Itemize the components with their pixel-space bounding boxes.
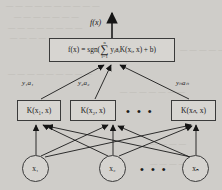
weight-label-2: y₂a₂ — [78, 79, 89, 87]
decision-operator: sgn( — [87, 45, 100, 54]
kernel-node-1-label: K(x₁, x) — [27, 106, 52, 115]
input-node-n: xₙ — [182, 155, 209, 182]
decision-bias: + b) — [144, 45, 156, 54]
input-node-2: x₂ — [99, 155, 126, 182]
output-label: f(x) — [90, 18, 101, 27]
decision-function-box: f(x) = sgn( n ∑ i=1 yᵢaᵢK(xᵢ, x) + b) — [49, 38, 175, 62]
input-node-n-label: xₙ — [192, 164, 199, 173]
weight-edge-1 — [41, 65, 104, 99]
kernel-node-1: K(x₁, x) — [17, 100, 61, 121]
sum-lower-limit: i=1 — [102, 55, 108, 59]
decision-term: yᵢaᵢK(xᵢ, x) — [110, 45, 142, 54]
weight-label-1: y₁a₁ — [22, 79, 33, 87]
input-node-1-label: x₁ — [32, 164, 38, 173]
kernel-node-2-label: K(x₂, x) — [81, 106, 106, 115]
decision-lhs: f(x) — [68, 45, 79, 54]
kernel-node-n: K(xₙ, x) — [171, 100, 216, 121]
input-row-ellipsis: • • • — [140, 164, 168, 175]
weight-label-n: yₙaₙ — [176, 79, 189, 87]
decision-equals: = — [81, 45, 85, 54]
figure-canvas: — — — — — — — — — — — — — — — — — — — — … — [0, 0, 222, 190]
kernel-node-n-label: K(xₙ, x) — [181, 106, 206, 115]
weight-edge-2 — [95, 65, 111, 99]
input-node-1: x₁ — [22, 155, 49, 182]
input-node-2-label: x₂ — [109, 164, 115, 173]
kernel-row-ellipsis: • • • — [126, 106, 154, 117]
summation-symbol: n ∑ i=1 — [101, 41, 109, 59]
kernel-node-2: K(x₂, x) — [70, 100, 116, 121]
